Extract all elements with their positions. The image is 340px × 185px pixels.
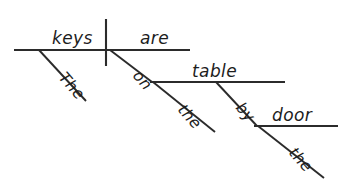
label-verb-are: are bbox=[140, 28, 169, 48]
sentence-diagram-canvas: keys are The on table the by door the bbox=[0, 0, 340, 185]
sentence-diagram-svg: keys are The on table the by door the bbox=[0, 0, 340, 185]
label-preposition-on: on bbox=[129, 67, 156, 94]
label-object-door: door bbox=[272, 105, 313, 125]
label-article-the-door: the bbox=[285, 144, 316, 176]
label-subject-keys: keys bbox=[52, 28, 93, 48]
label-object-table: table bbox=[192, 61, 237, 81]
label-article-the-table: the bbox=[174, 101, 205, 133]
